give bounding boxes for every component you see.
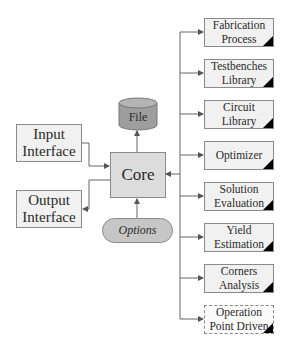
module-label: Fabrication Process	[213, 19, 265, 45]
corner-marker-icon	[263, 77, 273, 87]
file-storage: File	[118, 97, 158, 131]
module-yield-estimation: Yield Estimation	[204, 223, 274, 252]
options-pill: Options	[102, 218, 173, 243]
core-label: Core	[121, 165, 154, 185]
module-label: Corners Analysis	[219, 265, 259, 291]
module-solution-evaluation: Solution Evaluation	[204, 182, 274, 211]
module-circuit-library: Circuit Library	[204, 100, 274, 129]
corner-marker-icon	[263, 323, 273, 333]
corner-marker-icon	[263, 118, 273, 128]
core-box: Core	[110, 152, 166, 198]
file-label: File	[118, 110, 158, 125]
module-optimizer: Optimizer	[204, 141, 274, 170]
module-label: Solution Evaluation	[214, 183, 264, 209]
module-testbenches-library: Testbenches Library	[204, 59, 274, 88]
input-interface-box: Input Interface	[16, 124, 82, 162]
output-interface-box: Output Interface	[16, 190, 82, 228]
module-label: Yield Estimation	[214, 224, 264, 250]
corner-marker-icon	[263, 282, 273, 292]
corner-marker-icon	[263, 200, 273, 210]
module-fabrication-process: Fabrication Process	[204, 18, 274, 47]
module-corners-analysis: Corners Analysis	[204, 264, 274, 293]
module-label: Optimizer	[216, 149, 263, 162]
input-interface-label: Input Interface	[22, 126, 75, 161]
options-label: Options	[118, 224, 156, 238]
module-operation-point-driven: Operation Point Driven	[204, 305, 274, 334]
corner-marker-icon	[263, 241, 273, 251]
module-label: Operation Point Driven	[209, 306, 268, 332]
module-label: Testbenches Library	[211, 60, 267, 86]
output-interface-label: Output Interface	[22, 192, 75, 227]
corner-marker-icon	[263, 159, 273, 169]
corner-marker-icon	[263, 36, 273, 46]
